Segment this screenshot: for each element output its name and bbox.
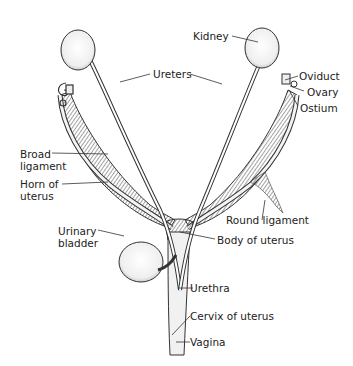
label-round-ligament: Round ligament <box>226 214 309 226</box>
right-ovary <box>282 74 297 87</box>
label-broad-ligament-1: Broad <box>20 148 51 160</box>
urinary-bladder <box>119 242 163 282</box>
label-ureters: Ureters <box>153 68 192 80</box>
label-urethra: Urethra <box>190 282 230 294</box>
left-kidney <box>61 30 95 70</box>
label-bladder-1: Urinary <box>58 225 97 237</box>
label-bladder-2: bladder <box>58 237 98 249</box>
label-ovary: Ovary <box>307 86 338 98</box>
right-kidney <box>245 28 279 68</box>
label-horn-2: uterus <box>20 190 54 202</box>
label-horn-1: Horn of <box>20 178 59 190</box>
label-cervix: Cervix of uterus <box>190 310 274 322</box>
label-broad-ligament-2: ligament <box>20 160 66 172</box>
label-kidney: Kidney <box>193 30 229 42</box>
label-oviduct: Oviduct <box>299 70 340 82</box>
label-vagina: Vagina <box>190 336 225 348</box>
label-ostium: Ostium <box>300 102 338 114</box>
label-body-of-uterus: Body of uterus <box>217 234 294 246</box>
